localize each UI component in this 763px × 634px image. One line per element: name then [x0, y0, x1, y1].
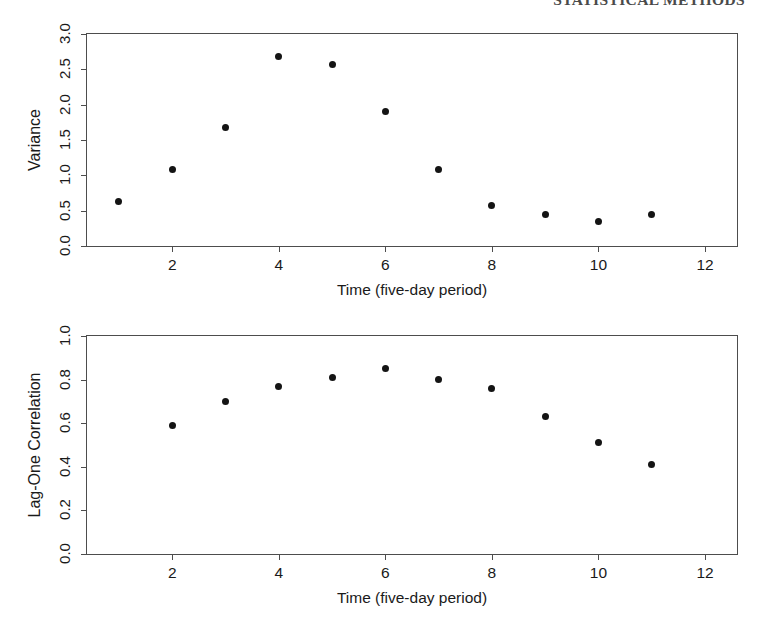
- variance-y-axis-title: Variance: [26, 109, 44, 171]
- lagone-y-tick-label: 0.6: [56, 403, 73, 443]
- variance-y-tick-label: 1.0: [56, 155, 73, 195]
- lagone-data-point: [648, 461, 655, 468]
- lagone-y-tick-label: 0.0: [56, 534, 73, 574]
- variance-x-tick: [705, 246, 706, 252]
- variance-data-point: [435, 166, 442, 173]
- lagone-x-tick: [172, 554, 173, 560]
- variance-x-axis-title: Time (five-day period): [86, 281, 738, 299]
- variance-x-tick: [598, 246, 599, 252]
- lagone-x-tick: [705, 554, 706, 560]
- lagone-x-tick-label: 4: [259, 564, 299, 582]
- variance-data-point: [169, 166, 176, 173]
- lagone-data-point: [222, 398, 229, 405]
- variance-y-tick: [81, 34, 87, 35]
- variance-y-tick: [81, 69, 87, 70]
- variance-y-tick-label: 1.5: [56, 120, 73, 160]
- variance-data-point: [488, 202, 495, 209]
- variance-data-point: [275, 53, 282, 60]
- variance-y-tick: [81, 175, 87, 176]
- variance-data-point: [542, 211, 549, 218]
- lagone-y-tick: [81, 380, 87, 381]
- lagone-data-point: [435, 376, 442, 383]
- lagone-data-point: [595, 439, 602, 446]
- variance-x-tick: [492, 246, 493, 252]
- variance-x-tick: [279, 246, 280, 252]
- variance-data-point: [222, 124, 229, 131]
- variance-y-tick-label: 0.5: [56, 190, 73, 230]
- running-header-text: STATISTICAL METHODS: [553, 0, 745, 9]
- lagone-x-tick: [279, 554, 280, 560]
- variance-x-tick-label: 8: [472, 256, 512, 274]
- lagone-data-point: [488, 385, 495, 392]
- lagone-data-point: [275, 383, 282, 390]
- variance-y-tick: [81, 246, 87, 247]
- variance-data-point: [595, 218, 602, 225]
- running-header: STATISTICAL METHODS: [0, 0, 763, 9]
- variance-y-tick-label: 2.5: [56, 49, 73, 89]
- lagone-y-tick: [81, 423, 87, 424]
- variance-data-point: [115, 198, 122, 205]
- variance-y-tick: [81, 211, 87, 212]
- lagone-data-point: [382, 365, 389, 372]
- lagone-y-tick: [81, 554, 87, 555]
- lagone-y-tick: [81, 510, 87, 511]
- lagone-x-tick-label: 12: [685, 564, 725, 582]
- lagone-x-tick: [598, 554, 599, 560]
- variance-x-tick: [385, 246, 386, 252]
- lagone-data-point: [329, 374, 336, 381]
- variance-y-tick-label: 3.0: [56, 14, 73, 54]
- variance-x-tick-label: 2: [152, 256, 192, 274]
- variance-y-tick-label: 2.0: [56, 84, 73, 124]
- lag-one-correlation-panel: Lag-One Correlation Time (five-day perio…: [0, 320, 763, 630]
- variance-x-tick-label: 10: [578, 256, 618, 274]
- lagone-data-point: [542, 413, 549, 420]
- variance-data-point: [382, 108, 389, 115]
- lagone-y-tick: [81, 336, 87, 337]
- lagone-plot-area: [86, 335, 738, 555]
- variance-panel: Variance Time (five-day period) 0.00.51.…: [0, 16, 763, 316]
- lagone-x-tick-label: 6: [365, 564, 405, 582]
- lagone-data-point: [169, 422, 176, 429]
- variance-y-tick: [81, 140, 87, 141]
- lagone-y-tick-label: 0.4: [56, 446, 73, 486]
- variance-x-tick: [172, 246, 173, 252]
- lagone-y-tick-label: 1.0: [56, 316, 73, 356]
- variance-x-tick-label: 4: [259, 256, 299, 274]
- lagone-x-tick: [492, 554, 493, 560]
- variance-y-tick: [81, 105, 87, 106]
- lagone-x-tick-label: 2: [152, 564, 192, 582]
- lagone-x-tick-label: 10: [578, 564, 618, 582]
- variance-x-tick-label: 6: [365, 256, 405, 274]
- lagone-y-tick-label: 0.2: [56, 490, 73, 530]
- lagone-x-axis-title: Time (five-day period): [86, 589, 738, 607]
- variance-x-tick-label: 12: [685, 256, 725, 274]
- lagone-y-tick-label: 0.8: [56, 359, 73, 399]
- variance-plot-area: [86, 33, 738, 247]
- variance-y-tick-label: 0.0: [56, 226, 73, 266]
- variance-data-point: [648, 211, 655, 218]
- lagone-x-tick: [385, 554, 386, 560]
- lagone-y-axis-title: Lag-One Correlation: [26, 373, 44, 518]
- lagone-x-tick-label: 8: [472, 564, 512, 582]
- lagone-y-tick: [81, 467, 87, 468]
- variance-data-point: [329, 61, 336, 68]
